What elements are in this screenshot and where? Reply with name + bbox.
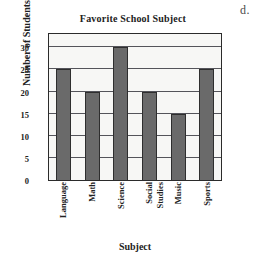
x-tick-label: Sports — [201, 182, 213, 238]
x-axis-title: Subject — [48, 241, 222, 252]
y-tick-label: 0 — [7, 177, 29, 185]
x-tick-label: Language — [57, 182, 69, 238]
plot-area — [48, 33, 222, 181]
gridline — [49, 91, 221, 92]
bar — [142, 92, 157, 180]
x-tick-label: Music — [172, 182, 184, 238]
gridline — [49, 46, 221, 47]
bar — [171, 114, 186, 180]
bar — [113, 47, 128, 180]
x-tick-label: SocialStudies — [143, 182, 155, 238]
y-tick-label: 5 — [7, 155, 29, 163]
x-tick-label-line2: Studies — [154, 182, 166, 238]
gridline — [49, 135, 221, 136]
gridline — [49, 157, 221, 158]
x-tick-label: Math — [86, 182, 98, 238]
y-tick-label: 25 — [7, 66, 29, 74]
gridline — [49, 113, 221, 114]
plot-inner — [49, 34, 221, 180]
y-tick-label: 30 — [7, 44, 29, 52]
y-tick-label: 20 — [7, 89, 29, 97]
bar — [56, 69, 71, 180]
gridline — [49, 68, 221, 69]
bar — [85, 92, 100, 180]
x-axis-tick-labels: LanguageMathScienceSocialStudiesMusicSpo… — [48, 182, 222, 238]
chart-title: Favorite School Subject — [0, 13, 256, 24]
x-tick-label: Science — [115, 182, 127, 238]
y-tick-label: 10 — [7, 133, 29, 141]
y-tick-label: 15 — [7, 111, 29, 119]
bar — [199, 69, 214, 180]
